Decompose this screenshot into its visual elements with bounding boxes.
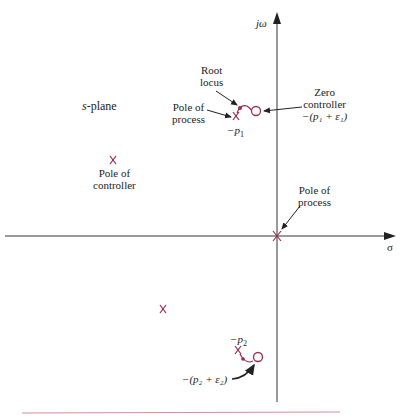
pole-process-origin-arrow [282,206,300,229]
plane-text: -plane [87,99,117,113]
zero-lower-text: −(p₂ + ε₂) [182,373,227,385]
neg-p1-label: −p1 [227,124,244,141]
zero-lower-marker [254,353,263,362]
imag-axis-text: jω [256,17,267,29]
neg-p2-label: −p2 [230,333,247,350]
real-axis-label: σ [387,241,393,253]
pole-process-origin-label: Pole of process [298,184,331,208]
zero-controller-label: Zero controller −(p₁ + ε₁) [302,86,347,122]
zero-upper-marker [252,107,261,116]
pole-process-origin-line1: Pole of [298,184,331,196]
s-plane-diagram [0,0,413,419]
zero-lower-arrow [232,365,254,379]
root-locus-arrow [216,91,237,105]
pole-process-upper-label: Pole of process [172,101,205,125]
root-locus-label: Root locus [200,64,223,88]
imaginary-axis-arrowhead [273,12,281,24]
root-locus-upper-dot [238,106,242,110]
neg-p2-sub: 2 [243,339,247,348]
neg-p1-text: −p [227,124,240,136]
root-locus-lower-dot [241,357,245,361]
zero-controller-line3: −(p₁ + ε₁) [302,110,347,122]
root-locus-line2: locus [200,76,223,88]
real-axis-text: σ [387,241,393,253]
pole-process-upper-arrow [207,110,231,117]
zero-controller-line1: Zero [302,86,347,98]
pole-process-upper-line2: process [172,113,205,125]
pole-controller-marker [110,156,116,164]
neg-p1-sub: 1 [240,130,244,139]
pole-controller-line1: Pole of [93,167,136,179]
pole-controller-line2: controller [93,179,136,191]
pole-process-upper-line1: Pole of [172,101,205,113]
zero-controller-line2: controller [302,98,347,110]
zero-lower-label: −(p₂ + ε₂) [182,373,227,385]
real-axis-arrowhead [384,232,396,240]
pole-p1-marker [233,112,239,120]
pole-process-origin-line2: process [298,196,331,208]
root-locus-line1: Root [200,64,223,76]
pole-controller-label: Pole of controller [93,167,136,191]
bottom-rule [22,412,340,413]
s-plane-label: s-plane [82,100,117,112]
pole-lower-controller-marker [160,305,166,313]
imag-axis-label: jω [256,17,267,29]
zero-controller-arrow [264,107,302,111]
neg-p2-text: −p [230,333,243,345]
